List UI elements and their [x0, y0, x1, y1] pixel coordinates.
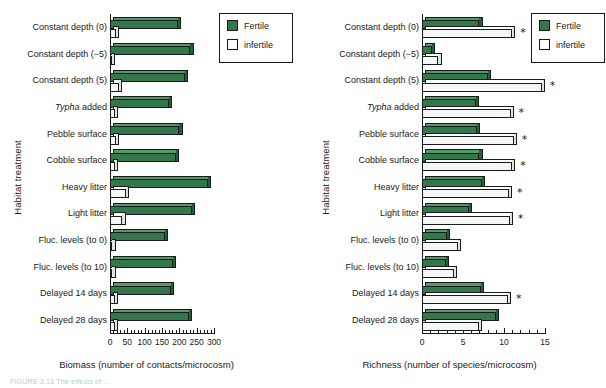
legend-item-infertile: infertile — [539, 39, 585, 50]
category-label: Constant depth (5) — [32, 75, 107, 85]
legend-richness: Fertile infertile — [531, 13, 605, 63]
legend-label-infertile: infertile — [244, 40, 273, 50]
bar-top-face — [113, 96, 172, 99]
bar-side-face — [192, 203, 195, 215]
bar-top-face — [113, 149, 179, 152]
bar-side-face — [496, 309, 499, 321]
bar-side-face — [514, 133, 517, 145]
x-axis-major-tick — [145, 328, 146, 333]
bar-top-face — [425, 212, 513, 215]
legend-item-fertile: Fertile — [539, 20, 581, 31]
x-axis-minor-tick — [211, 330, 212, 333]
bar-infertile — [422, 133, 517, 145]
bar-side-face — [512, 159, 515, 171]
bar-top-face — [425, 96, 479, 99]
category-label: Cobble surface — [358, 155, 419, 165]
category-label: Cobble surface — [46, 155, 107, 165]
bar-infertile — [110, 26, 119, 38]
bar-fertile — [110, 309, 192, 321]
bar-top-face — [113, 17, 181, 20]
y-axis-label-biomass: Habitat treatment — [12, 123, 23, 233]
bar-front-face — [422, 216, 510, 225]
bar-front-face — [110, 20, 178, 29]
bar-infertile — [110, 79, 122, 91]
bar-side-face — [512, 26, 515, 38]
x-axis-tick-label: 0 — [407, 337, 437, 347]
bar-side-face — [115, 319, 118, 331]
significance-marker: * — [520, 161, 526, 170]
bar-front-face — [110, 189, 126, 198]
bar-front-face — [422, 162, 512, 171]
bar-side-face — [115, 106, 118, 118]
bar-infertile — [422, 319, 482, 331]
bar-side-face — [509, 186, 512, 198]
bar-top-face — [113, 309, 192, 312]
bar-infertile — [422, 212, 513, 224]
significance-marker: * — [517, 188, 523, 197]
bar-top-face — [425, 70, 491, 73]
bar-infertile — [422, 106, 514, 118]
legend-biomass: Fertile infertile — [219, 13, 293, 63]
bar-infertile — [422, 292, 511, 304]
category-label: Pebble surface — [359, 129, 419, 139]
bar-top-face — [425, 159, 515, 162]
bar-infertile — [110, 106, 118, 118]
x-axis-major-tick — [162, 328, 163, 333]
x-axis-minor-tick — [165, 330, 166, 333]
figure-caption: FIGURE 3.13 The effects of ... — [10, 378, 110, 385]
bar-front-face — [422, 109, 511, 118]
bar-side-face — [165, 229, 168, 241]
bar-front-face — [422, 136, 514, 145]
bar-side-face — [176, 149, 179, 161]
bar-front-face — [422, 189, 509, 198]
bar-infertile — [422, 186, 512, 198]
x-axis-minor-tick — [183, 330, 184, 333]
bar-side-face — [511, 106, 514, 118]
category-label: Pebble surface — [47, 129, 107, 139]
x-axis-minor-tick — [176, 330, 177, 333]
bar-top-face — [425, 309, 499, 312]
bar-infertile — [110, 53, 115, 65]
bar-side-face — [126, 186, 129, 198]
bar-infertile — [422, 53, 442, 65]
bar-side-face — [112, 239, 115, 251]
category-label: Typha added — [367, 102, 419, 112]
bar-side-face — [454, 266, 457, 278]
bar-top-face — [425, 239, 461, 242]
legend-swatch-infertile-icon — [539, 39, 550, 50]
category-label: Light litter — [380, 208, 419, 218]
bar-top-face — [113, 70, 188, 73]
x-axis-minor-tick — [204, 330, 205, 333]
x-axis-minor-tick — [141, 330, 142, 333]
bar-side-face — [122, 212, 125, 224]
bar-side-face — [173, 256, 176, 268]
bar-side-face — [189, 309, 192, 321]
x-axis-label-richness: Richness (number of species/microcosm) — [298, 359, 601, 370]
bar-front-face — [110, 126, 179, 135]
bar-infertile — [110, 159, 118, 171]
bar-infertile — [422, 26, 515, 38]
x-axis-minor-tick — [520, 330, 521, 333]
category-label: Constant depth (−5) — [27, 49, 107, 59]
bar-top-face — [425, 292, 511, 295]
x-axis-minor-tick — [138, 330, 139, 333]
bar-front-face — [422, 322, 479, 331]
bar-top-face — [113, 203, 195, 206]
x-axis-minor-tick — [131, 330, 132, 333]
bar-fertile — [110, 123, 183, 135]
significance-marker: * — [520, 28, 526, 37]
bar-infertile — [110, 186, 129, 198]
bar-front-face — [110, 46, 190, 55]
x-axis-minor-tick — [148, 330, 149, 333]
significance-marker: * — [518, 214, 524, 223]
x-axis-minor-tick — [152, 330, 153, 333]
significance-marker: * — [516, 294, 522, 303]
x-axis-minor-tick — [169, 330, 170, 333]
bar-side-face — [185, 70, 188, 82]
bar-fertile — [110, 149, 179, 161]
x-axis-minor-tick — [512, 330, 513, 333]
bar-side-face — [178, 17, 181, 29]
category-label: Constant depth (5) — [344, 75, 419, 85]
category-label: Delayed 14 days — [40, 288, 107, 298]
bar-side-face — [190, 43, 193, 55]
